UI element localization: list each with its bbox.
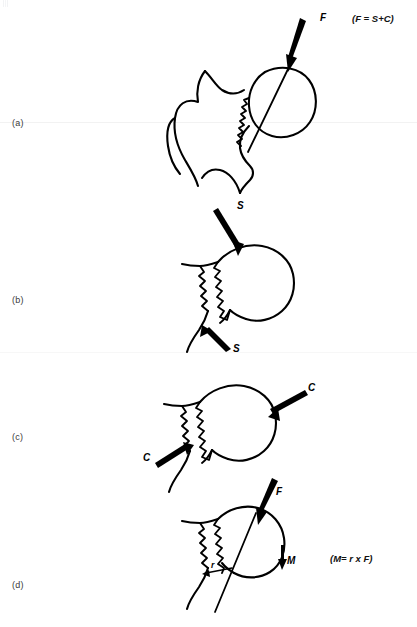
force-arrow-shaft-a	[288, 18, 306, 59]
greater-trochanter-a	[175, 71, 205, 186]
shear-arrow-upper-shaft-b	[213, 208, 240, 247]
fracture-edge-proximal-b	[214, 262, 230, 320]
femoral-head-outline-a	[249, 68, 316, 137]
panel-b-drawing	[182, 208, 294, 352]
femoral-head-outline-d	[218, 507, 284, 578]
compression-arrow-lower-shaft-c	[155, 444, 188, 468]
fracture-edge-distal-b	[199, 266, 208, 311]
bone-diagram-svg: .bone{fill:none;stroke:#000;stroke-width…	[0, 0, 417, 627]
femoral-head-inferior-c	[212, 450, 228, 459]
panel-a-drawing	[167, 18, 316, 193]
lesser-trochanter-a	[202, 169, 240, 193]
force-line-a	[248, 67, 289, 152]
fracture-edge-proximal-c	[196, 402, 212, 460]
force-arrow-shaft-d	[258, 478, 278, 513]
panel-c-drawing	[155, 385, 308, 492]
panel-d-drawing	[182, 478, 287, 612]
femoral-head-inferior-b	[230, 310, 246, 319]
calcar-a	[240, 126, 253, 193]
moment-arm-line-d	[206, 568, 232, 573]
figure-canvas: (a) (b) (c) (d) (F = S+C) (M= r x F) F S…	[0, 0, 417, 627]
trochanter-top-a	[205, 71, 244, 93]
fracture-edge-distal-d	[199, 523, 208, 568]
fracture-line-a	[237, 98, 249, 146]
